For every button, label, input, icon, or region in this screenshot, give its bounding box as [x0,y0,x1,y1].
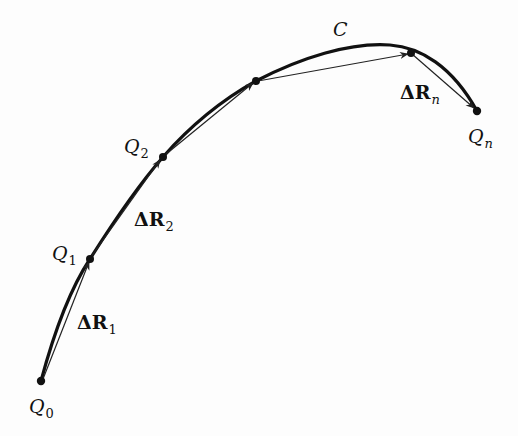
label-delta-r2: ΔR2 [134,210,174,229]
label-q1-sub: 1 [69,253,77,268]
point-p4 [407,49,415,57]
label-delta-r2-sub: 2 [166,219,174,234]
curve-label-c: C [333,20,348,39]
point-q2 [159,153,167,161]
point-p3 [252,77,260,85]
label-delta-rn-sub: n [432,92,440,107]
point-q1 [86,255,94,263]
point-qn [473,107,481,115]
label-delta-r1-name: ΔR [77,311,108,333]
label-q2: Q2 [124,137,149,156]
label-qn: Qn [468,127,493,146]
label-delta-r1: ΔR1 [77,313,117,332]
label-q1: Q1 [52,244,77,263]
label-delta-r1-sub: 1 [109,322,117,337]
label-q1-name: Q [52,242,68,264]
vector-delta-r2 [165,83,253,155]
label-q0-sub: 0 [46,406,54,421]
label-delta-r2-name: ΔR [134,208,165,230]
label-delta-rn-name: ΔR [400,81,431,103]
curve-diagram: C Q0 Q1 Q2 Qn ΔR1 ΔR2 ΔRn [0,0,518,436]
label-q2-name: Q [124,135,140,157]
point-q0 [37,377,45,385]
label-qn-sub: n [485,136,493,151]
diagram-canvas [0,0,518,436]
label-q0: Q0 [29,397,54,416]
label-delta-rn: ΔRn [400,83,440,102]
label-qn-name: Q [468,125,484,147]
label-q2-sub: 2 [141,146,149,161]
label-q0-name: Q [29,395,45,417]
